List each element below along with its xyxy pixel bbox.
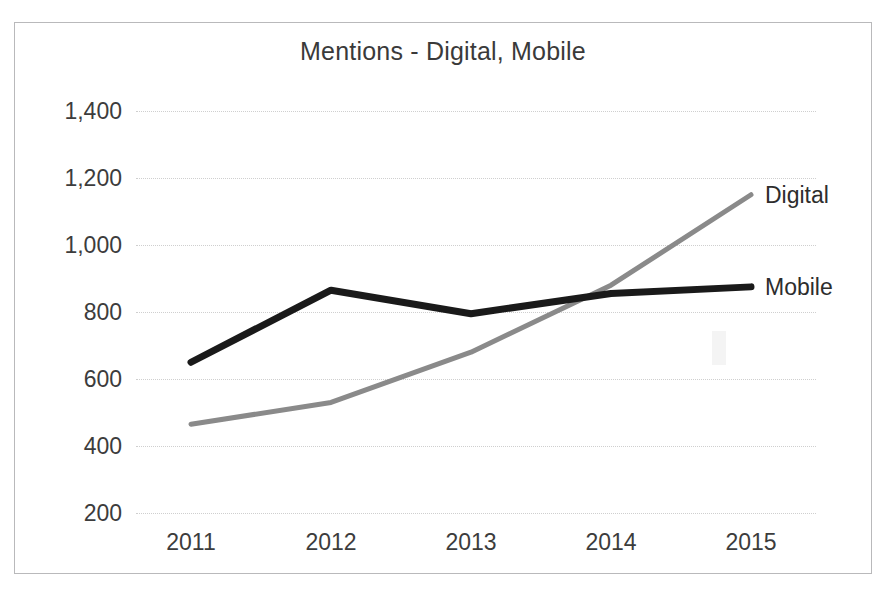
series-label-digital: Digital <box>751 181 829 208</box>
x-tick-label: 2012 <box>305 529 356 556</box>
series-line-digital <box>191 195 751 424</box>
series-lines <box>136 111 816 513</box>
x-tick-label: 2011 <box>166 529 215 556</box>
y-tick-label: 200 <box>84 500 122 527</box>
y-tick-label: 1,200 <box>64 165 122 192</box>
series-label-mobile: Mobile <box>751 273 833 300</box>
y-tick-label: 400 <box>84 433 122 460</box>
x-tick-label: 2015 <box>725 529 776 556</box>
y-tick-label: 600 <box>84 366 122 393</box>
y-tick-label: 800 <box>84 299 122 326</box>
y-tick-label: 1,400 <box>64 98 122 125</box>
scan-artifact <box>712 331 726 365</box>
x-tick-label: 2014 <box>585 529 636 556</box>
chart-frame: Mentions - Digital, Mobile 2004006008001… <box>14 22 872 574</box>
chart-title: Mentions - Digital, Mobile <box>15 37 871 66</box>
gridline <box>136 513 816 514</box>
plot-area: 2004006008001,0001,2001,400 201120122013… <box>136 111 816 513</box>
x-tick-label: 2013 <box>445 529 496 556</box>
y-tick-label: 1,000 <box>64 232 122 259</box>
